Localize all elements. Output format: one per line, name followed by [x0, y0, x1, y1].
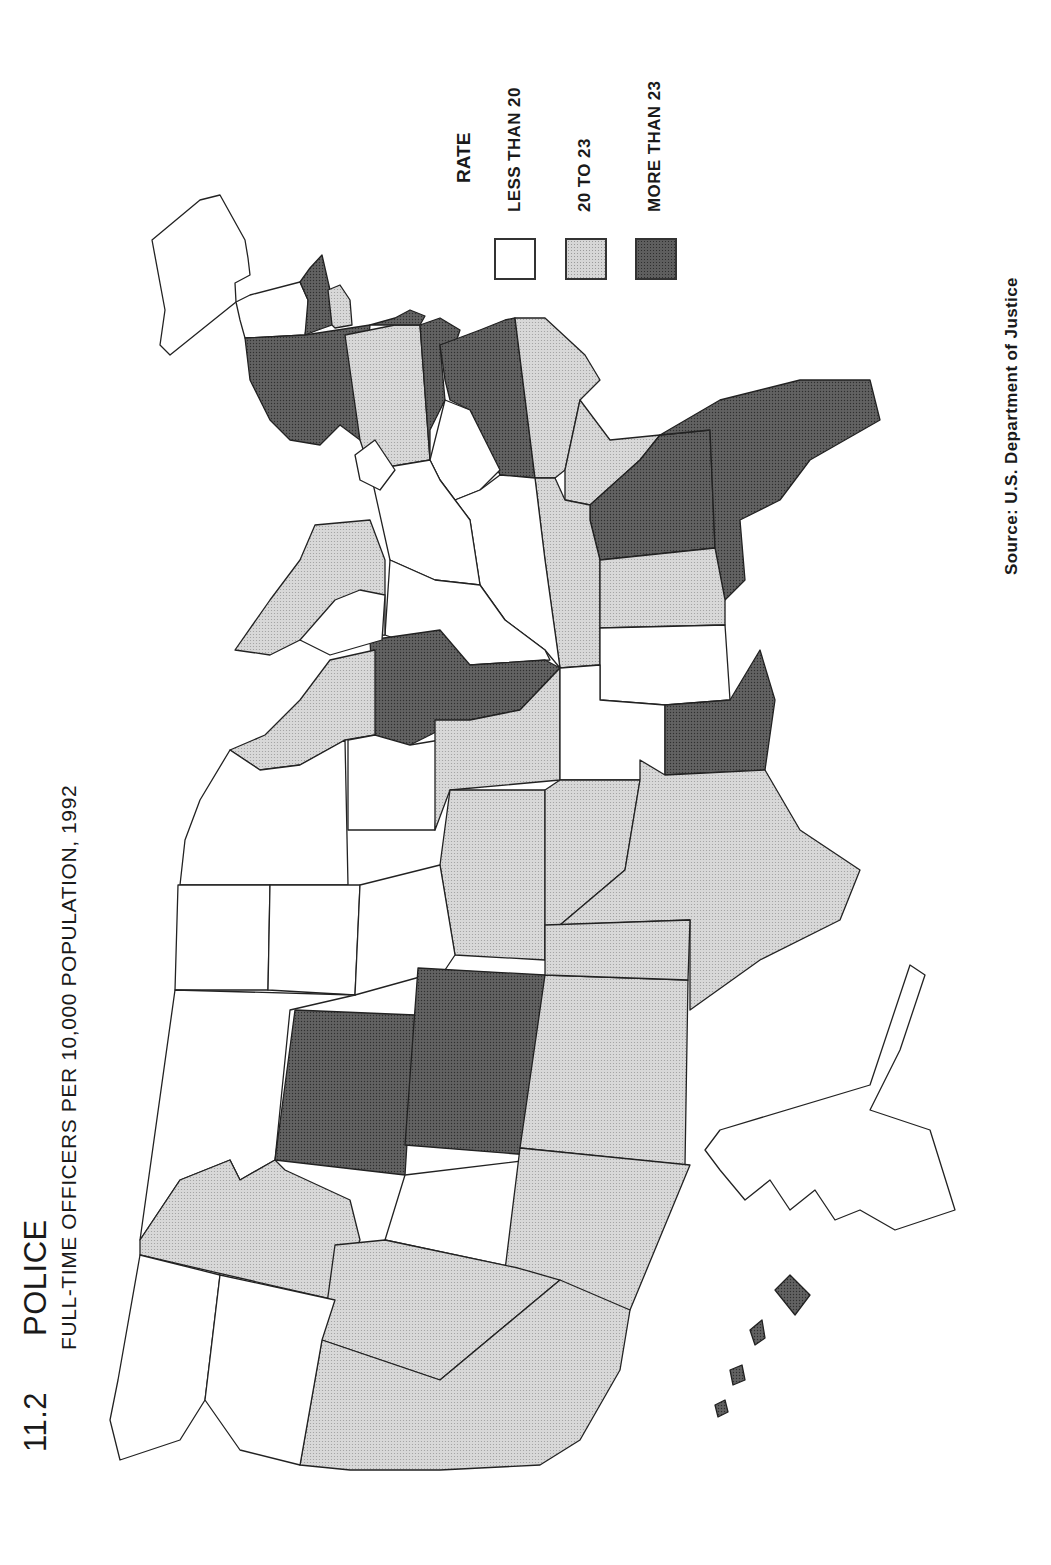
state-south-dakota: [268, 885, 360, 995]
legend-title: RATE: [453, 133, 475, 183]
state-hawaii-4: [715, 1400, 728, 1417]
source-note: Source: U.S. Department of Justice: [1002, 277, 1022, 575]
state-hawaii-2: [750, 1320, 765, 1345]
legend-swatch-mid: [565, 238, 607, 280]
figure-number: 11.2: [18, 1392, 54, 1452]
state-north-dakota: [175, 885, 270, 990]
us-choropleth-map: [0, 0, 1051, 1565]
page-subtitle: FULL-TIME OFFICERS PER 10,000 POPULATION…: [57, 785, 81, 1350]
state-kansas: [440, 790, 545, 960]
state-maine: [152, 195, 250, 355]
state-iowa: [348, 735, 440, 830]
legend-label-low: LESS THAN 20: [505, 87, 525, 212]
state-mississippi: [600, 625, 730, 705]
legend-label-mid: 20 TO 23: [575, 138, 595, 212]
legend-swatch-low: [494, 238, 536, 280]
state-washington: [110, 1255, 220, 1460]
state-vermont-nh: [236, 282, 308, 338]
state-alaska: [705, 965, 955, 1230]
state-alabama: [600, 548, 725, 628]
state-hawaii-3: [730, 1365, 745, 1385]
state-texas-panhandle: [545, 920, 690, 980]
state-new-jersey: [370, 310, 425, 325]
legend-swatch-high: [635, 238, 677, 280]
state-pennsylvania: [345, 325, 430, 470]
state-new-mexico: [520, 975, 688, 1165]
legend-label-high: MORE THAN 23: [645, 81, 665, 212]
state-connecticut: [328, 285, 352, 328]
state-hawaii-1: [775, 1275, 810, 1315]
state-wyoming: [275, 1010, 415, 1175]
page-title: POLICE: [18, 1219, 54, 1336]
